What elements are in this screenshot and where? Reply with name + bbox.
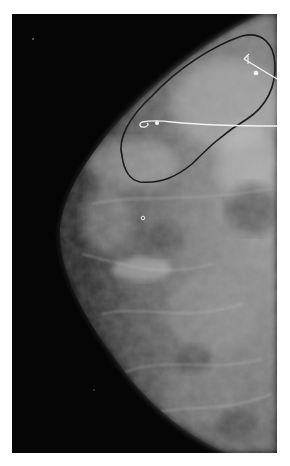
radiograph-canvas [12, 14, 277, 453]
artifact-speck [93, 389, 95, 391]
marker-dot-upper [254, 71, 259, 76]
breast-tissue [12, 14, 277, 453]
artifact-speck [32, 38, 34, 40]
mammogram-image [12, 14, 277, 453]
marker-dot-middle [155, 121, 159, 125]
